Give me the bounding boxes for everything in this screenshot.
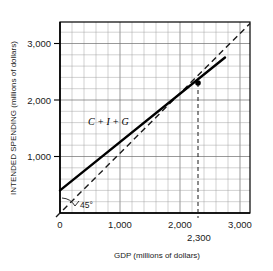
- y-tick-label-1000: 1,000: [27, 151, 51, 162]
- y-tick-label-3000: 3,000: [27, 38, 51, 49]
- equilibrium-point-marker: [195, 80, 201, 86]
- equilibrium-gdp-label: 2,300: [187, 232, 211, 243]
- y-axis-ticks: [54, 44, 60, 157]
- series-label-cig: C + I + G: [88, 116, 129, 127]
- x-tick-label-0: 0: [57, 219, 62, 230]
- angle-label-45: 45°: [80, 200, 93, 210]
- chart-figure: C + I + G 45° 3,000 2,000 1,000 0 1,000 …: [0, 0, 273, 271]
- x-tick-label-2000: 2,000: [168, 219, 192, 230]
- y-axis-title: INTENDED SPENDING (millions of dollars): [9, 41, 18, 195]
- x-tick-label-1000: 1,000: [108, 219, 132, 230]
- x-axis-title: GDP (millions of dollars): [114, 251, 200, 260]
- y-tick-label-2000: 2,000: [27, 95, 51, 106]
- x-tick-label-3000: 3,000: [228, 219, 252, 230]
- intended-spending-vs-gdp-chart: C + I + G 45° 3,000 2,000 1,000 0 1,000 …: [0, 0, 273, 271]
